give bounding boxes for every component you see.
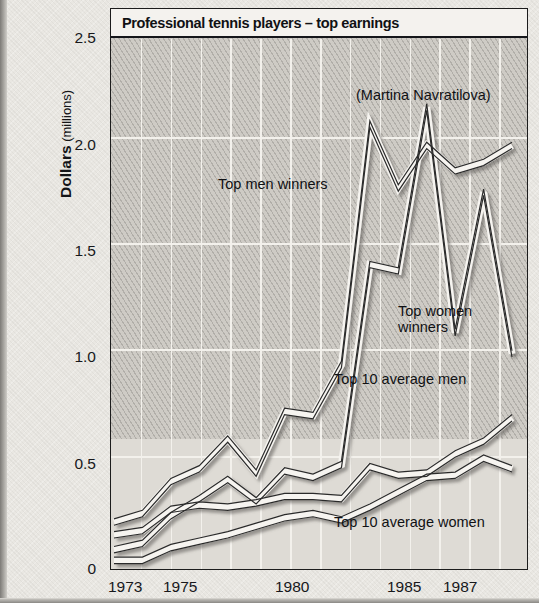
chart-title-bar: Professional tennis players – top earnin… — [111, 9, 527, 38]
y-tick-1.5: 1.5 — [24, 242, 96, 260]
page-background: 0 0.5 1.0 1.5 2.0 2.5 Dollars (millions)… — [0, 0, 539, 603]
y-axis-title-strong: Dollars — [57, 145, 74, 198]
y-axis-title-light: (millions) — [59, 90, 74, 146]
y-tick-2.5: 2.5 — [24, 29, 96, 47]
x-tick-1975: 1975 — [163, 578, 197, 596]
y-tick-1.0: 1.0 — [24, 348, 96, 366]
label-top-women-winners: Top women winners — [398, 303, 472, 335]
y-tick-0.5: 0.5 — [24, 455, 96, 473]
x-tick-1985: 1985 — [387, 578, 421, 596]
chart-plot-area: Top men winners (Martina Navratilova) To… — [110, 8, 528, 570]
label-top10-average-women: Top 10 average women — [334, 514, 485, 530]
label-top10-average-men: Top 10 average men — [334, 371, 466, 387]
x-tick-1973: 1973 — [108, 578, 142, 596]
label-top-men-winners: Top men winners — [218, 176, 328, 192]
y-axis-title: Dollars (millions) — [57, 90, 75, 198]
y-tick-0: 0 — [24, 560, 96, 578]
label-top-women-winners-line1: Top women — [398, 303, 472, 319]
x-tick-1980: 1980 — [275, 578, 309, 596]
chart-title: Professional tennis players – top earnin… — [111, 15, 399, 31]
label-martina-navratilova: (Martina Navratilova) — [356, 87, 491, 103]
label-top-women-winners-line2: winners — [398, 319, 472, 335]
x-tick-1987: 1987 — [443, 578, 477, 596]
